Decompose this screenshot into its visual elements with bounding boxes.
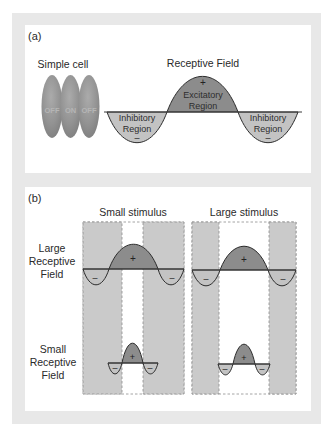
- plus-sign: +: [241, 353, 246, 363]
- minus-sign: –: [222, 364, 227, 374]
- excitatory-label-line1: Excitatory: [183, 90, 223, 100]
- subregion-label-off-right: OFF: [82, 106, 97, 115]
- plus-sign: +: [130, 352, 135, 362]
- large-stimulus-column: + – – + – –: [192, 222, 296, 394]
- panel-a: (a) Simple cell OFF ON OFF Receptive Fie…: [25, 25, 311, 173]
- minus-sign: –: [92, 273, 97, 283]
- column-title-large-stimulus: Large stimulus: [210, 206, 278, 218]
- inhibitory-left-label-line1: Inhibitory: [119, 113, 156, 123]
- panel-b: (b) Small stimulus Large stimulus Large …: [25, 187, 311, 411]
- minus-sign: –: [203, 274, 208, 284]
- plus-sign: +: [130, 253, 136, 264]
- row-label-line: Large: [39, 242, 66, 254]
- subregion-label-on: ON: [65, 106, 76, 115]
- small-stimulus-column: + – – + – –: [83, 222, 184, 394]
- surround-left: [192, 222, 219, 394]
- minus-sign: –: [280, 274, 285, 284]
- inhibitory-right-sign: –: [265, 133, 270, 143]
- inhibitory-right-label-line1: Inhibitory: [250, 113, 287, 123]
- panel-b-label: (b): [28, 192, 41, 204]
- surround-right: [269, 222, 296, 394]
- row-label-line: Receptive: [30, 356, 77, 368]
- row-label-line: Field: [41, 268, 64, 280]
- receptive-field-title: Receptive Field: [167, 57, 240, 69]
- panel-a-label: (a): [28, 30, 41, 42]
- plus-sign: +: [241, 254, 247, 265]
- minus-sign: –: [147, 363, 152, 373]
- minus-sign: –: [259, 364, 264, 374]
- row-label-line: Field: [42, 369, 65, 381]
- receptive-field-figure: (a) Simple cell OFF ON OFF Receptive Fie…: [0, 0, 332, 435]
- excitatory-label-line2: Region: [189, 101, 218, 111]
- inhibitory-left-sign: –: [134, 133, 139, 143]
- subregion-label-off-left: OFF: [45, 106, 60, 115]
- excitatory-sign: +: [200, 77, 206, 88]
- simple-cell-title: Simple cell: [38, 58, 89, 70]
- minus-sign: –: [112, 363, 117, 373]
- row-label-line: Receptive: [29, 255, 76, 267]
- row-label-line: Small: [40, 343, 66, 355]
- column-title-small-stimulus: Small stimulus: [99, 206, 167, 218]
- minus-sign: –: [169, 273, 174, 283]
